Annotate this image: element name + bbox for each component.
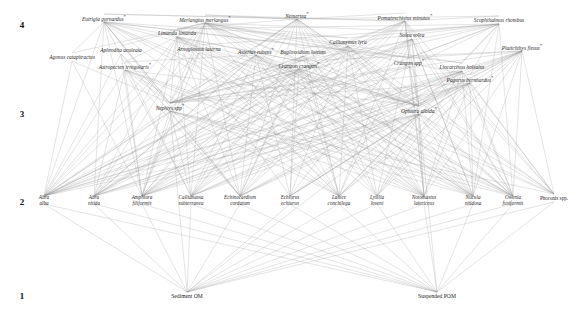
- asterisk-marker: *: [306, 11, 309, 16]
- taxon-label-arnoglossus[interactable]: Arnoglossus laterna: [177, 46, 221, 52]
- trophic-link: [339, 46, 348, 196]
- taxon-label-crangon_spp[interactable]: Crangon spp*: [394, 58, 425, 66]
- taxon-label-pagurus[interactable]: Pagurus bernhardus*: [447, 75, 494, 83]
- trophic-link: [187, 204, 290, 292]
- taxon-label-line: subterranea: [178, 200, 203, 206]
- food-web-links: [0, 0, 582, 315]
- trophic-link: [473, 51, 522, 196]
- taxon-label-phoronis[interactable]: Phoronis spp.: [540, 195, 568, 201]
- asterisk-marker: *: [124, 14, 127, 19]
- taxon-label-line: Merlangius merlangus*: [179, 15, 230, 23]
- taxon-label-buglossidium[interactable]: Buglossidium luteum: [280, 49, 325, 55]
- taxon-label-line: cordatum: [224, 200, 256, 206]
- asterisk-marker: *: [540, 43, 543, 48]
- taxon-label-line: Nemertea*: [285, 11, 308, 19]
- taxon-label-line: Crangon crangon*: [279, 61, 320, 69]
- trophic-link: [424, 71, 462, 196]
- taxon-label-abra_alba[interactable]: Abraalba: [39, 194, 49, 206]
- taxon-label-platichthys[interactable]: Platichthys flesus*: [502, 43, 542, 51]
- taxon-label-aphrodita[interactable]: Aphrodita aculeata: [100, 47, 142, 53]
- taxon-label-nephtys[interactable]: Nephtys spp*: [156, 103, 185, 111]
- trophic-link: [240, 204, 437, 292]
- trophic-link: [187, 204, 191, 292]
- trophic-link: [205, 23, 412, 31]
- trophic-link: [104, 22, 348, 38]
- taxon-label-liocarcinus[interactable]: Liocarcinus holsatus: [440, 64, 485, 70]
- trophic-link: [44, 22, 104, 196]
- taxon-label-line: Liocarcinus holsatus: [440, 64, 485, 70]
- taxon-label-line: Aphrodita aculeata: [100, 47, 142, 53]
- taxon-label-line: Scophthalmus rhombus: [474, 17, 524, 23]
- taxon-label-line: Solea solea: [400, 32, 425, 38]
- trophic-link: [44, 70, 125, 196]
- taxon-label-owenia[interactable]: Oweniafusiformis: [503, 194, 524, 206]
- trophic-link: [142, 39, 412, 196]
- taxon-label-astropecten[interactable]: Astropecten irregularis*: [99, 62, 152, 70]
- axis-tick-2: 2: [20, 197, 25, 207]
- trophic-link: [205, 23, 348, 38]
- axis-tick-1: 1: [20, 291, 25, 301]
- trophic-link: [240, 69, 299, 196]
- taxon-label-line: alba: [39, 200, 49, 206]
- taxon-label-echiurus[interactable]: Echiurusechiurus: [281, 194, 300, 206]
- trophic-link: [72, 22, 104, 53]
- taxon-label-callionymus[interactable]: Callionymus lyra: [329, 39, 366, 45]
- trophic-link: [470, 83, 554, 194]
- taxon-label-line: Suspended POM: [418, 293, 456, 300]
- taxon-label-pomatoschistus[interactable]: Pomatoschistus minutus*: [378, 13, 433, 21]
- trophic-link: [44, 204, 187, 292]
- axis-tick-4: 4: [20, 20, 25, 30]
- taxon-label-line: Nephtys spp*: [156, 103, 185, 111]
- trophic-link: [437, 204, 473, 292]
- taxon-label-nucula[interactable]: Nuculanitidosa: [465, 194, 482, 206]
- taxon-label-line: latericeus: [412, 200, 437, 206]
- trophic-link: [256, 19, 297, 47]
- trophic-link: [256, 55, 554, 194]
- taxon-label-line: Agonus cataphractus: [49, 54, 95, 60]
- taxon-label-line: Pagurus bernhardus*: [447, 75, 494, 83]
- taxon-label-eutrigla[interactable]: Eutrigla gurnardus*: [82, 14, 126, 22]
- trophic-link: [187, 204, 377, 292]
- taxon-label-sediment_om[interactable]: Sediment OM: [171, 293, 203, 300]
- taxon-label-echinocardium[interactable]: Echinocardiumcordatum: [224, 194, 256, 206]
- taxon-label-line: Astropecten irregularis*: [99, 62, 152, 70]
- asterisk-marker: *: [491, 75, 494, 80]
- taxon-label-crangon_crangon[interactable]: Crangon crangon*: [279, 61, 320, 69]
- taxon-label-line: Buglossidium luteum: [280, 49, 325, 55]
- taxon-label-line: Pomatoschistus minutus*: [378, 13, 433, 21]
- taxon-label-notomastus[interactable]: Notomastuslatericeus: [412, 194, 437, 206]
- taxon-label-line: filiformis: [132, 200, 153, 206]
- taxon-label-line: conchilega: [328, 200, 351, 206]
- taxon-label-limanda[interactable]: Limanda limanda: [158, 30, 196, 36]
- trophic-link: [142, 204, 437, 292]
- trophic-link: [94, 114, 419, 196]
- trophic-link: [170, 37, 177, 103]
- trophic-link: [191, 46, 348, 196]
- taxon-label-line: nitidosa: [465, 200, 482, 206]
- asterisk-marker: *: [430, 13, 433, 18]
- taxon-label-lanice[interactable]: Laniceconchilega: [328, 194, 351, 206]
- taxon-label-nemertea[interactable]: Nemertea*: [285, 11, 308, 19]
- taxon-label-suspended_pom[interactable]: Suspended POM: [418, 293, 456, 300]
- taxon-label-amphiura[interactable]: Amphiurafiliformis: [132, 194, 153, 206]
- taxon-label-line: Phoronis spp.: [540, 195, 568, 201]
- trophic-link: [191, 204, 437, 292]
- taxon-label-lysilla[interactable]: Lysillaloveni: [370, 194, 384, 206]
- taxon-label-line: Sediment OM: [171, 293, 203, 300]
- taxon-label-merlangius[interactable]: Merlangius merlangus*: [179, 15, 230, 23]
- taxon-label-line: echiurus: [281, 200, 300, 206]
- trophic-link: [187, 204, 473, 292]
- food-web-figure: 4321 Eutrigla gurnardus*Merlangius merla…: [0, 0, 582, 315]
- trophic-link: [437, 204, 513, 292]
- taxon-label-agonus[interactable]: Agonus cataphractus: [49, 54, 95, 60]
- asterisk-marker: *: [272, 47, 275, 52]
- taxon-label-callianassa[interactable]: Callianassasubterranea: [178, 194, 203, 206]
- trophic-link: [187, 202, 554, 292]
- taxon-label-scophthalmus[interactable]: Scophthalmus rhombus: [474, 17, 524, 23]
- taxon-label-ophiura[interactable]: Ophiura albida*: [401, 106, 437, 114]
- taxon-label-abra_nitida[interactable]: Abranitida: [88, 194, 100, 206]
- taxon-label-asterias[interactable]: Asterias rubens*: [238, 47, 274, 55]
- trophic-link: [187, 204, 240, 292]
- taxon-label-solea[interactable]: Solea solea: [400, 32, 425, 38]
- asterisk-marker: *: [434, 106, 437, 111]
